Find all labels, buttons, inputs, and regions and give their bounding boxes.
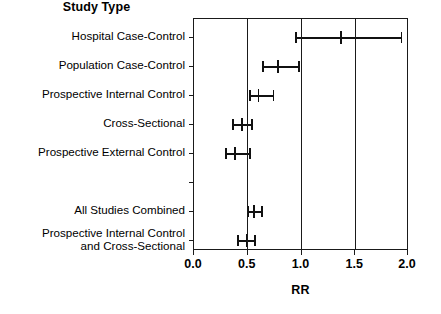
ci-cap-low [249,90,251,101]
point-estimate-marker [340,31,342,44]
gridline-0-5 [247,19,248,249]
x-tick-label-0-0: 0.0 [184,257,201,271]
point-estimate-marker [241,118,243,131]
row-label: All Studies Combined [74,204,185,217]
ci-cap-high [273,90,275,101]
x-tick-label-1-5: 1.5 [346,257,363,271]
x-tick-1-5 [354,250,355,255]
point-estimate-marker [258,89,260,102]
row-label: Prospective Internal Control [42,88,185,101]
x-axis-title: RR [193,283,408,297]
ci-whisker-line [263,66,300,68]
ci-cap-high [254,235,256,246]
x-tick-2-0 [407,250,408,255]
gridline-1-5 [355,19,356,249]
x-tick-1-0 [301,250,302,255]
ci-cap-low [232,119,234,130]
x-tick-label-0-5: 0.5 [238,257,255,271]
ci-cap-high [298,61,300,72]
x-axis-ticks [193,250,408,256]
row-label: Prospective External Control [38,146,185,159]
ci-cap-low [295,32,297,43]
x-tick-0-5 [247,250,248,255]
point-estimate-marker [277,60,279,73]
point-estimate-marker [253,205,255,218]
row-label-column: Hospital Case-ControlPopulation Case-Con… [0,18,189,250]
row-label: Population Case-Control [59,59,185,72]
x-tick-label-1-0: 1.0 [292,257,309,271]
row-label: Hospital Case-Control [72,30,185,43]
ci-cap-high [251,119,253,130]
row-label: Prospective Internal Control and Cross-S… [42,227,185,252]
ci-whisker-line [296,37,401,39]
ci-whisker-line [250,95,274,97]
plot-area [193,18,408,250]
x-tick-0-0 [193,250,194,255]
row-tickmark [189,182,194,183]
ci-cap-high [249,148,251,159]
ci-cap-low [225,148,227,159]
ci-cap-high [401,32,403,43]
point-estimate-marker [234,147,236,160]
forest-plot-figure: Study Type Hospital Case-ControlPopulati… [0,0,441,314]
row-label: Cross-Sectional [103,117,185,130]
ci-cap-low [262,61,264,72]
x-axis-tick-labels: 0.00.51.01.52.0 [0,257,441,273]
ci-cap-high [261,206,263,217]
x-tick-label-2-0: 2.0 [398,257,415,271]
ci-cap-low [237,235,239,246]
column-header-study-type: Study Type [0,0,193,14]
gridline-1 [301,19,302,249]
